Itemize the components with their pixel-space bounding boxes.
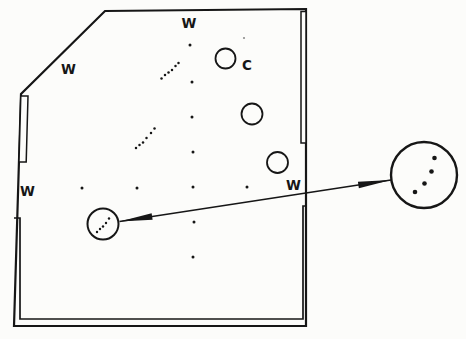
dot (153, 127, 156, 130)
dot (192, 256, 195, 259)
dot (164, 74, 167, 77)
label-window-right: W (286, 177, 301, 193)
dot (432, 156, 437, 161)
highlight-circle (88, 209, 119, 240)
dot (105, 222, 107, 224)
dot (138, 144, 141, 147)
dot (413, 190, 418, 195)
dot (167, 71, 170, 74)
dot (150, 132, 153, 135)
dots-column (189, 44, 196, 259)
dot (145, 137, 148, 140)
enclosure-figure: W W W W C (0, 0, 466, 339)
arrow-shaft (120, 180, 392, 222)
cup-circle-2 (242, 104, 263, 125)
dot (192, 151, 195, 154)
cup-circle-1 (216, 49, 236, 69)
dot (142, 141, 145, 144)
dots-row (81, 186, 249, 190)
dot (243, 37, 245, 39)
arrow-head-left (120, 213, 153, 221)
dot (189, 44, 192, 47)
window-right-frame (301, 12, 306, 144)
enclosure-inner-wall (14, 206, 306, 319)
window-left-frame (19, 96, 28, 162)
dot (191, 116, 194, 119)
dot (177, 62, 180, 65)
dots-trail-upper (160, 62, 180, 80)
figure-canvas: W W W W C (0, 0, 466, 339)
arrow-head-right (358, 180, 391, 188)
dots-in-highlight (96, 217, 110, 233)
enclosure-outer-wall (14, 9, 306, 326)
dots-speck (243, 37, 245, 39)
dot (102, 225, 104, 227)
dot (99, 228, 101, 230)
dot (422, 181, 427, 186)
dot (135, 147, 138, 150)
dot (429, 169, 434, 174)
dot (160, 77, 163, 80)
dot (193, 221, 196, 224)
dots-trail-middle (135, 127, 156, 149)
dot (96, 231, 98, 233)
dot (192, 186, 195, 189)
enclosure-walls (14, 9, 306, 326)
dot (136, 187, 139, 190)
dot (171, 69, 174, 72)
dots-in-magnified (413, 156, 437, 195)
dot (108, 217, 110, 219)
dot (191, 81, 194, 84)
label-window-top: W (182, 15, 197, 31)
dot (246, 186, 249, 189)
search-dots (81, 37, 437, 259)
label-cup: C (242, 57, 252, 73)
dot (81, 187, 84, 190)
magnifier-arrow (120, 180, 392, 222)
magnified-circle (391, 142, 457, 208)
label-window-diagonal: W (61, 61, 76, 77)
label-window-left: W (20, 183, 35, 199)
dot (174, 65, 177, 68)
inset-circles (88, 142, 458, 240)
cup-circle-3 (267, 152, 288, 173)
